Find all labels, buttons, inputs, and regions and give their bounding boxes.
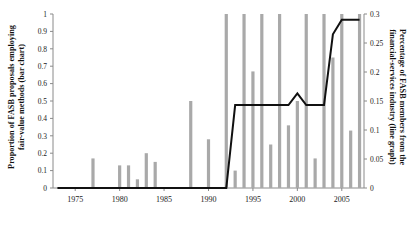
- x-axis: 1975198019851990199520002005: [53, 188, 364, 204]
- x-tick-label: 1980: [112, 195, 128, 204]
- y-tick-label: 0.1: [38, 166, 48, 175]
- bar: [251, 71, 254, 188]
- bar: [189, 101, 192, 188]
- y-tick-label: 0.8: [38, 45, 48, 54]
- y2-tick-label: 0.2: [370, 68, 380, 77]
- bar: [136, 179, 139, 188]
- x-tick-label: 2000: [289, 195, 305, 204]
- bar: [314, 158, 317, 188]
- bar: [242, 14, 245, 188]
- y-tick-label: 0.6: [38, 79, 48, 88]
- y-tick-label: 0.3: [38, 132, 48, 141]
- x-tick-label: 1975: [67, 195, 83, 204]
- y-tick-label: 1: [43, 10, 47, 19]
- bar: [340, 14, 343, 188]
- bar: [234, 171, 237, 188]
- left-y-axis-title: Proportion of FASB proposals employingfa…: [7, 24, 26, 169]
- bar: [305, 14, 308, 188]
- y2-tick-label: 0.1: [370, 126, 380, 135]
- bar: [91, 158, 94, 188]
- bar: [207, 139, 210, 188]
- x-tick-label: 1990: [201, 195, 217, 204]
- fasb-fair-value-chart: 00.10.20.30.40.50.60.70.80.91 00.050.10.…: [0, 0, 416, 226]
- x-tick-label: 1985: [156, 195, 172, 204]
- x-tick-label: 1995: [245, 195, 261, 204]
- bar: [296, 101, 299, 188]
- bar: [145, 153, 148, 188]
- left-y-axis: 00.10.20.30.40.50.60.70.80.91: [38, 10, 53, 193]
- bar: [358, 14, 361, 188]
- bar: [269, 145, 272, 189]
- bar-series: [91, 14, 361, 188]
- bar: [331, 58, 334, 189]
- right-y-axis: 00.050.10.150.20.250.3: [364, 10, 383, 193]
- bar: [287, 125, 290, 188]
- y-tick-label: 0.5: [38, 97, 48, 106]
- right-y-axis-title: Percentage of FASB members from thefinan…: [388, 29, 407, 166]
- bar: [118, 165, 121, 188]
- bar: [127, 165, 130, 188]
- bar: [225, 14, 228, 188]
- y2-tick-label: 0.25: [370, 39, 383, 48]
- y-tick-label: 0: [43, 184, 47, 193]
- bar: [154, 162, 157, 188]
- y-tick-label: 0.7: [38, 62, 48, 71]
- bar: [260, 14, 263, 188]
- x-tick-label: 2005: [334, 195, 350, 204]
- y-tick-label: 0.2: [38, 149, 48, 158]
- y2-tick-label: 0.15: [370, 97, 383, 106]
- bar: [349, 131, 352, 188]
- y2-tick-label: 0.05: [370, 155, 383, 164]
- bar: [278, 14, 281, 188]
- y2-tick-label: 0: [370, 184, 374, 193]
- y2-tick-label: 0.3: [370, 10, 380, 19]
- y-tick-label: 0.4: [38, 114, 48, 123]
- chart-container: 00.10.20.30.40.50.60.70.80.91 00.050.10.…: [0, 0, 416, 226]
- y-tick-label: 0.9: [38, 27, 48, 36]
